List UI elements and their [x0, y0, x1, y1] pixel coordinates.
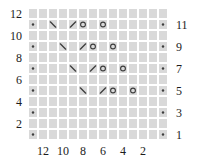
grid-cell: [138, 63, 148, 74]
grid-cell: [98, 8, 108, 19]
grid-cell: [48, 96, 58, 107]
grid-cell: [148, 107, 158, 118]
grid-cell: [108, 19, 118, 30]
grid-cell: [28, 19, 38, 30]
purl-dot-icon: [159, 86, 167, 95]
grid-cell: [48, 52, 58, 63]
grid-cell: [138, 129, 148, 140]
grid-cell: [68, 118, 78, 129]
grid-cell: [48, 19, 58, 30]
grid-cell: [58, 118, 68, 129]
grid-cell: [108, 74, 118, 85]
lace-chart: 12108642 1197531 12108642: [0, 0, 198, 166]
grid-cell: [88, 63, 98, 74]
grid-cell: [118, 85, 128, 96]
grid-cell: [78, 30, 88, 41]
grid-cell: [88, 19, 98, 30]
grid-cell: [98, 74, 108, 85]
grid-cell: [118, 96, 128, 107]
yarn-over-icon: [99, 64, 107, 73]
row-label-right: 11: [176, 19, 188, 30]
grid-cell: [28, 41, 38, 52]
grid-cell: [148, 85, 158, 96]
grid-cell: [78, 74, 88, 85]
grid-cell: [158, 52, 168, 63]
grid-cell: [78, 52, 88, 63]
grid-cell: [58, 96, 68, 107]
grid-cell: [118, 63, 128, 74]
grid-cell: [108, 41, 118, 52]
yarn-over-icon: [109, 86, 117, 95]
grid-cell: [28, 30, 38, 41]
grid-cell: [68, 74, 78, 85]
grid-cell: [138, 41, 148, 52]
grid-cell: [158, 129, 168, 140]
row-label-left: 12: [0, 8, 22, 19]
grid-cell: [78, 8, 88, 19]
grid-cell: [48, 30, 58, 41]
grid-cell: [138, 107, 148, 118]
grid-cell: [158, 41, 168, 52]
grid-cell: [38, 8, 48, 19]
grid-cell: [68, 96, 78, 107]
grid-cell: [68, 8, 78, 19]
grid-cell: [98, 30, 108, 41]
col-label-bottom: 8: [80, 146, 86, 157]
grid-cell: [38, 118, 48, 129]
grid-cell: [138, 19, 148, 30]
grid-cell: [38, 19, 48, 30]
grid-cell: [118, 129, 128, 140]
yarn-over-icon: [89, 42, 97, 51]
left-decrease-icon: [79, 86, 87, 95]
purl-dot-icon: [159, 42, 167, 51]
grid-cell: [58, 8, 68, 19]
grid-cell: [158, 74, 168, 85]
grid-cell: [128, 19, 138, 30]
grid-cell: [78, 85, 88, 96]
grid-cell: [128, 118, 138, 129]
grid-cell: [38, 85, 48, 96]
grid-cell: [38, 74, 48, 85]
grid-cell: [48, 63, 58, 74]
grid-cell: [108, 107, 118, 118]
purl-dot-icon: [29, 86, 37, 95]
col-label-bottom: 2: [140, 146, 146, 157]
grid-cell: [88, 107, 98, 118]
left-decrease-icon: [49, 20, 57, 29]
grid-cell: [98, 19, 108, 30]
purl-dot-icon: [159, 108, 167, 117]
grid-cell: [78, 129, 88, 140]
grid-cell: [148, 96, 158, 107]
right-decrease-icon: [79, 42, 87, 51]
grid-cell: [128, 41, 138, 52]
grid-cell: [118, 107, 128, 118]
grid-cell: [48, 8, 58, 19]
grid-cell: [58, 30, 68, 41]
grid-cell: [158, 85, 168, 96]
grid-cell: [108, 96, 118, 107]
grid-cell: [98, 96, 108, 107]
grid-cell: [108, 85, 118, 96]
grid-cell: [88, 74, 98, 85]
grid-cell: [28, 85, 38, 96]
right-decrease-icon: [89, 64, 97, 73]
grid-cell: [158, 30, 168, 41]
purl-dot-icon: [29, 108, 37, 117]
grid-cell: [158, 96, 168, 107]
row-label-left: 8: [0, 52, 22, 63]
grid-cell: [28, 8, 38, 19]
right-decrease-icon: [99, 86, 107, 95]
grid-cell: [138, 8, 148, 19]
grid-cell: [118, 74, 128, 85]
grid-cell: [38, 96, 48, 107]
grid-cell: [118, 8, 128, 19]
grid-cell: [88, 85, 98, 96]
grid-cell: [158, 63, 168, 74]
grid-cell: [148, 63, 158, 74]
grid-cell: [78, 41, 88, 52]
col-label-bottom: 10: [57, 146, 69, 157]
grid-cell: [118, 118, 128, 129]
grid-cell: [48, 41, 58, 52]
grid-cell: [58, 63, 68, 74]
grid-cell: [128, 52, 138, 63]
